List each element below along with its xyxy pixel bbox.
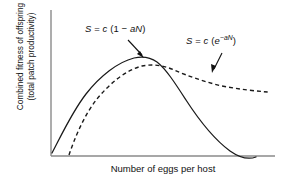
y-axis-title-line1: Combined fitness of offspring — [15, 0, 26, 127]
annotation-linear-variable: aN — [130, 23, 142, 34]
annotation-linear-body-close: ) — [142, 23, 145, 34]
annotation-linear-equals: = — [94, 23, 100, 34]
arrow-to-dashed-curve — [211, 53, 222, 73]
annotation-linear-symbol-s: S — [85, 23, 91, 34]
annotation-equation-exponential: S = c (e−aN) — [186, 35, 236, 46]
figure-container: S = c (1 − aN) S = c (e−aN) Number of eg… — [0, 0, 283, 180]
arrow-to-solid-curve — [128, 40, 144, 58]
annotation-exponential-body-close: ) — [233, 35, 236, 46]
annotation-exponential-coefficient: c — [204, 35, 209, 46]
annotation-exponential-equals: = — [195, 35, 201, 46]
curve-linear-lack — [52, 57, 256, 158]
x-axis-title: Number of eggs per host — [50, 163, 276, 174]
annotation-exponential-exponent: −aN — [220, 34, 233, 41]
annotation-exponential-symbol-s: S — [186, 35, 192, 46]
annotation-linear-body-open: (1 − — [110, 23, 130, 34]
annotation-equation-linear: S = c (1 − aN) — [85, 23, 146, 34]
y-axis-title-line2: (total patch productivity) — [25, 0, 36, 127]
y-axis-title: Combined fitness of offspring (total pat… — [15, 0, 36, 127]
curve-exponential — [69, 65, 268, 155]
annotation-linear-coefficient: c — [103, 23, 108, 34]
